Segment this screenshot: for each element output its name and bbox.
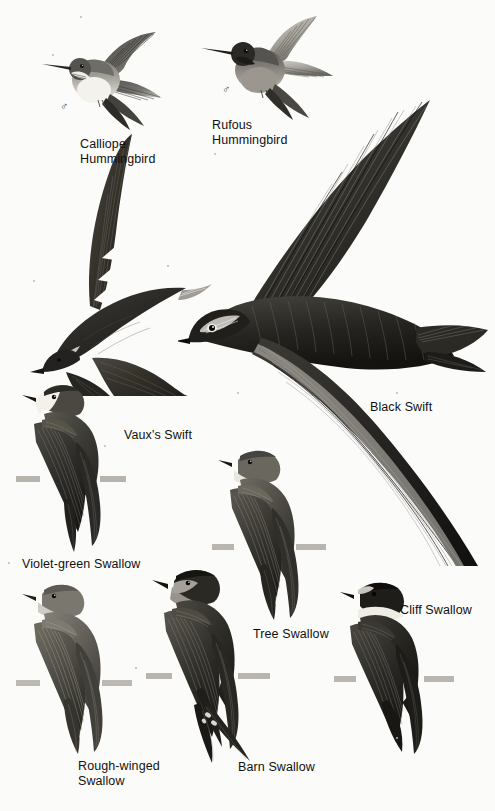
print-speck bbox=[104, 445, 106, 447]
violet-green-swallow-figure bbox=[14, 380, 140, 558]
print-speck bbox=[135, 667, 137, 669]
print-speck bbox=[167, 265, 169, 267]
print-speck bbox=[214, 153, 216, 155]
barn-swallow-figure bbox=[146, 565, 282, 767]
label-calliope-hummingbird: Calliope Hummingbird bbox=[80, 137, 155, 166]
field-guide-plate: Calliope Hummingbird ♂ Rufous Hummingbir… bbox=[0, 0, 495, 811]
print-speck bbox=[33, 280, 35, 282]
calliope-hummingbird-figure bbox=[38, 28, 178, 138]
label-rough-winged-swallow: Rough-winged Swallow bbox=[78, 759, 160, 788]
label-violet-green-swallow: Violet-green Swallow bbox=[22, 557, 141, 572]
print-speck bbox=[8, 562, 10, 564]
print-speck bbox=[237, 392, 239, 394]
print-speck bbox=[396, 392, 398, 394]
label-cliff-swallow: Cliff Swallow bbox=[400, 603, 472, 618]
print-speck bbox=[80, 16, 82, 18]
print-speck bbox=[396, 737, 398, 739]
male-symbol-rufous: ♂ bbox=[222, 83, 230, 95]
label-barn-swallow: Barn Swallow bbox=[238, 760, 315, 775]
label-tree-swallow: Tree Swallow bbox=[253, 627, 329, 642]
label-black-swift: Black Swift bbox=[370, 400, 432, 415]
print-speck bbox=[52, 54, 54, 56]
male-symbol-calliope: ♂ bbox=[60, 100, 68, 112]
rough-winged-swallow-figure bbox=[16, 580, 142, 758]
label-rufous-hummingbird: Rufous Hummingbird bbox=[212, 118, 287, 147]
label-vauxs-swift: Vaux's Swift bbox=[124, 428, 192, 443]
